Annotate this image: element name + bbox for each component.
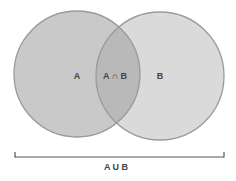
union-bracket: [15, 152, 224, 158]
set-a-label: A: [74, 71, 81, 81]
set-b-label: B: [157, 71, 164, 81]
union-label: A U B: [104, 162, 129, 172]
venn-diagram: A A ∩ B B A U B: [0, 0, 236, 181]
intersection-label: A ∩ B: [103, 71, 128, 81]
